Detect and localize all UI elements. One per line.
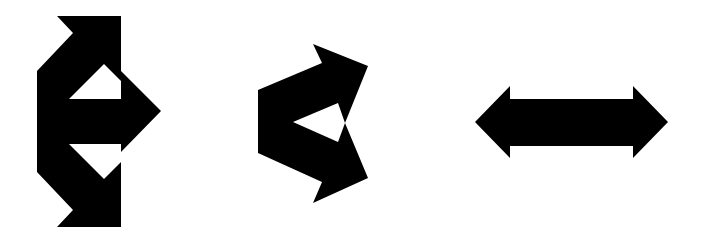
figure-svg xyxy=(0,0,709,241)
figure-canvas: Three black geometric arrow figures on a… xyxy=(0,0,709,241)
